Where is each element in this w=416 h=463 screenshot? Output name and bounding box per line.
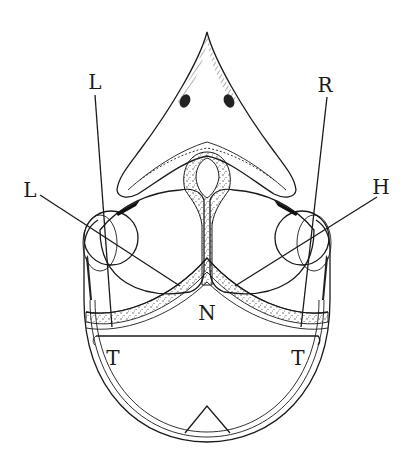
leader-line-L-left [40, 195, 180, 286]
cross-section-diagram [0, 0, 416, 463]
label-L-left: L [23, 180, 36, 200]
label-R: R [317, 75, 332, 95]
label-T-left: T [106, 348, 119, 368]
label-L-upper: L [88, 72, 101, 92]
label-H: H [372, 177, 389, 197]
bottom-triangle [185, 406, 230, 433]
label-T-right: T [291, 348, 304, 368]
label-N: N [198, 303, 216, 323]
leader-line-H [235, 197, 377, 286]
circle-right [275, 211, 329, 265]
